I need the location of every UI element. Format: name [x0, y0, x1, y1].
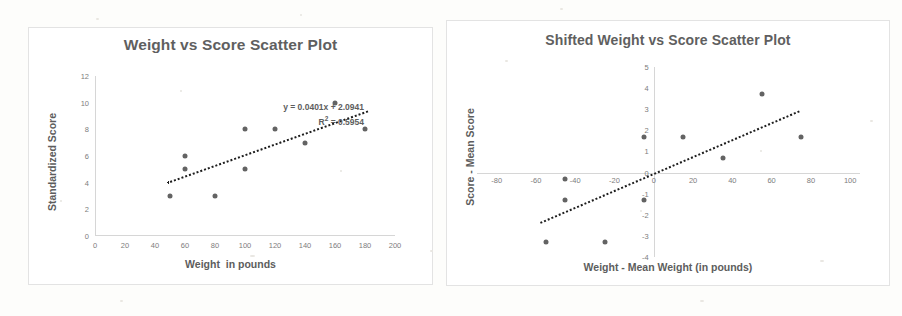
data-point [563, 198, 568, 203]
x-tick-label: 80 [211, 241, 219, 250]
chart-title-left: Weight vs Score Scatter Plot [29, 36, 432, 54]
x-tick-label: 60 [767, 175, 775, 184]
x-tick-label: -40 [570, 175, 581, 184]
chart-shifted-weight-vs-score: Shifted Weight vs Score Scatter Plot Sco… [446, 20, 890, 286]
data-point [563, 176, 568, 181]
y-axis-line-left [95, 76, 96, 236]
x-tick-label: 200 [389, 241, 402, 250]
x-tick-label: 60 [181, 241, 189, 250]
y-axis-line-right [654, 67, 655, 257]
y-tick-label: 0 [85, 232, 89, 241]
y-tick-label: 10 [81, 98, 89, 107]
y-tick-label: 5 [645, 63, 649, 72]
data-point [183, 167, 188, 172]
scan-speck [120, 300, 123, 302]
x-tick-label: 40 [151, 241, 159, 250]
equation-text-left: y = 0.0401x + 2.0941 [214, 101, 364, 114]
plot-area-right: -80-60-40-20020406080100 -4-3-2-1012345 [477, 67, 860, 257]
scan-speck [300, 14, 302, 16]
scanned-page: Weight vs Score Scatter Plot Standardize… [0, 0, 902, 316]
regression-annotation-left: y = 0.0401x + 2.0941 R2 = 0.5954 [214, 101, 364, 129]
r-squared-text-left: R2 = 0.5954 [214, 114, 364, 129]
scan-speck [96, 18, 99, 20]
y-tick-label: -4 [642, 253, 649, 262]
x-tick-label: 160 [329, 241, 342, 250]
y-tick-label: 4 [85, 178, 89, 187]
y-tick-label: 1 [645, 147, 649, 156]
data-point [168, 194, 173, 199]
x-axis-label-right: Weight - Mean Weight (in pounds) [447, 261, 889, 273]
x-tick-label: 120 [269, 241, 282, 250]
data-point [681, 134, 686, 139]
data-point [303, 140, 308, 145]
y-tick-label: 12 [81, 72, 89, 81]
x-tick-label: 0 [93, 241, 97, 250]
data-point [602, 240, 607, 245]
data-point [720, 155, 725, 160]
x-tick-label: 80 [807, 175, 815, 184]
x-tick-label: 0 [652, 175, 656, 184]
x-tick-label: 100 [239, 241, 252, 250]
x-tick-label: 20 [689, 175, 697, 184]
data-point [183, 154, 188, 159]
y-tick-label: 4 [645, 84, 649, 93]
data-point [759, 92, 764, 97]
x-tick-label: 40 [728, 175, 736, 184]
x-tick-label: 140 [299, 241, 312, 250]
x-tick-label: 20 [121, 241, 129, 250]
scan-speck [560, 8, 563, 10]
x-axis-line-left [95, 235, 395, 236]
x-tick-label: 100 [844, 175, 857, 184]
scan-speck [700, 300, 704, 302]
x-axis-label-left: Weight in pounds [29, 258, 432, 270]
data-point [213, 194, 218, 199]
data-point [799, 134, 804, 139]
data-point [641, 134, 646, 139]
y-tick-label: -3 [642, 231, 649, 240]
x-tick-label: 180 [359, 241, 372, 250]
y-tick-label: 2 [85, 205, 89, 214]
chart-weight-vs-score: Weight vs Score Scatter Plot Standardize… [28, 27, 433, 285]
chart-title-right: Shifted Weight vs Score Scatter Plot [447, 32, 889, 48]
data-point [243, 167, 248, 172]
y-tick-label: 2 [645, 126, 649, 135]
trendline [540, 110, 800, 224]
data-point [543, 240, 548, 245]
x-tick-label: -20 [609, 175, 620, 184]
y-tick-label: 8 [85, 125, 89, 134]
y-tick-label: 3 [645, 105, 649, 114]
x-tick-label: -80 [491, 175, 502, 184]
y-axis-label-right: Score - Mean Score [464, 92, 476, 222]
data-point [641, 198, 646, 203]
x-tick-label: -60 [531, 175, 542, 184]
x-axis-line-right [477, 173, 860, 174]
y-tick-label: -2 [642, 210, 649, 219]
y-axis-label-left: Standardized Score [46, 107, 58, 217]
y-tick-label: 6 [85, 152, 89, 161]
plot-area-left: 020406080100120140160180200 024681012 [95, 76, 395, 236]
